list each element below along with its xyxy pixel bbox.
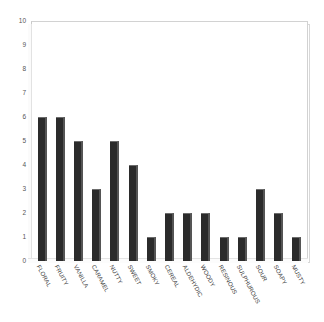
y-axis-tick-label: 3 — [22, 186, 26, 193]
x-axis-tick-label: CEREAL — [163, 264, 180, 289]
bar[interactable] — [292, 237, 301, 261]
x-label-slot: NUTTY — [106, 263, 124, 322]
x-label-slot: SULPHUROUS — [233, 263, 251, 322]
bar[interactable] — [129, 165, 138, 261]
x-label-slot: SOUR — [251, 263, 269, 322]
x-axis-tick-label: SWEET — [127, 264, 143, 286]
x-axis-tick-label: FLORAL — [36, 264, 53, 288]
y-axis: 012345678910 — [0, 0, 31, 322]
x-label-slot: SOAPY — [270, 263, 288, 322]
bar[interactable] — [201, 213, 210, 261]
x-axis-tick-label: NUTTY — [109, 264, 124, 285]
bar-slot — [51, 22, 69, 261]
x-label-slot: SMOKY — [142, 263, 160, 322]
y-axis-tick-label: 6 — [22, 114, 26, 121]
y-axis-tick-label: 4 — [22, 162, 26, 169]
x-axis-tick-label: FRUITY — [54, 264, 70, 286]
y-axis-tick-label: 10 — [19, 18, 26, 25]
bar-slot — [251, 22, 269, 261]
bar[interactable] — [165, 213, 174, 261]
bar-slot — [160, 22, 178, 261]
x-axis-labels: FLORALFRUITYVANILLACARAMELNUTTYSWEETSMOK… — [33, 263, 306, 322]
x-label-slot: ALDEHYDIC — [179, 263, 197, 322]
bar-slot — [233, 22, 251, 261]
bar-slot — [215, 22, 233, 261]
x-label-slot: SWEET — [124, 263, 142, 322]
bar[interactable] — [238, 237, 247, 261]
bar-slot — [179, 22, 197, 261]
bar[interactable] — [56, 117, 65, 261]
y-axis-tick-label: 1 — [22, 234, 26, 241]
y-axis-tick-label: 8 — [22, 66, 26, 73]
bar-slot — [69, 22, 87, 261]
bar[interactable] — [38, 117, 47, 261]
bar-slot — [142, 22, 160, 261]
bar[interactable] — [256, 189, 265, 261]
y-axis-tick-label: 0 — [22, 258, 26, 265]
x-label-slot: FLORAL — [33, 263, 51, 322]
bar[interactable] — [274, 213, 283, 261]
bar-slot — [270, 22, 288, 261]
x-axis-tick-label: SOUR — [254, 264, 268, 282]
x-label-slot: CEREAL — [160, 263, 178, 322]
x-axis-tick-label: WOODY — [200, 264, 216, 288]
bar[interactable] — [147, 237, 156, 261]
bar[interactable] — [110, 141, 119, 261]
bar-series — [33, 22, 306, 261]
bar-chart: 012345678910 FLORALFRUITYVANILLACARAMELN… — [0, 0, 324, 322]
x-axis-tick-label: SMOKY — [145, 264, 161, 286]
bar-slot — [33, 22, 51, 261]
bar-slot — [106, 22, 124, 261]
x-axis-tick-label: SOAPY — [272, 264, 287, 286]
bar[interactable] — [92, 189, 101, 261]
bar-slot — [288, 22, 306, 261]
y-axis-tick-label: 7 — [22, 90, 26, 97]
bar[interactable] — [220, 237, 229, 261]
y-axis-tick-label: 2 — [22, 210, 26, 217]
x-label-slot: MUSTY — [288, 263, 306, 322]
bar-slot — [88, 22, 106, 261]
bar[interactable] — [74, 141, 83, 261]
bar-slot — [197, 22, 215, 261]
y-axis-tick-label: 5 — [22, 138, 26, 145]
x-label-slot: FRUITY — [51, 263, 69, 322]
y-axis-tick-label: 9 — [22, 42, 26, 49]
x-label-slot: RESINOUS — [215, 263, 233, 322]
x-label-slot: CARAMEL — [88, 263, 106, 322]
x-axis-tick-label: MUSTY — [291, 264, 306, 286]
bar-slot — [124, 22, 142, 261]
x-label-slot: WOODY — [197, 263, 215, 322]
x-label-slot: VANILLA — [69, 263, 87, 322]
bar[interactable] — [183, 213, 192, 261]
